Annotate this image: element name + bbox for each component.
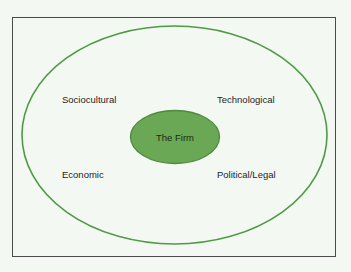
factor-political-legal: Political/Legal — [217, 170, 276, 180]
diagram-canvas: The Firm Sociocultural Technological Eco… — [0, 0, 351, 272]
factor-economic: Economic — [62, 170, 104, 180]
factor-technological: Technological — [217, 95, 275, 105]
factor-sociocultural: Sociocultural — [62, 95, 116, 105]
firm-label: The Firm — [156, 133, 194, 143]
